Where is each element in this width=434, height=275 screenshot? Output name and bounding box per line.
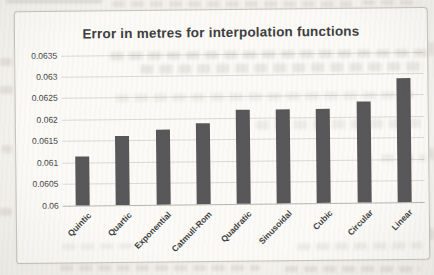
document-page-photo: { "chart_data": { "type": "bar", "title"… xyxy=(0,0,434,275)
bar-quintic xyxy=(75,156,90,205)
photo-artifact-smudge xyxy=(362,0,420,5)
x-category-label: Exponential xyxy=(133,210,174,251)
y-tick-label: 0.0635 xyxy=(17,51,57,60)
bar-sinusoidal xyxy=(276,109,291,203)
y-tick-label: 0.063 xyxy=(17,73,57,82)
bar-linear xyxy=(396,78,411,202)
x-category-label: Linear xyxy=(390,207,415,232)
bar-quartic xyxy=(115,136,130,205)
x-category-label: Quintic xyxy=(65,210,93,238)
photo-artifact-smudge xyxy=(112,1,352,7)
y-tick-label: 0.061 xyxy=(18,158,58,167)
bar-quadratic xyxy=(236,109,251,203)
y-tick-label: 0.0615 xyxy=(18,137,58,146)
x-category-label: Catmull-Rom xyxy=(170,209,214,254)
plot-area: 0.060.06050.0610.06150.0620.06250.0630.0… xyxy=(61,52,425,206)
bar-chart: Error in metres for interpolation functi… xyxy=(14,7,431,264)
photo-artifact-smudge xyxy=(285,266,420,272)
photo-artifact-smudge xyxy=(0,58,12,66)
x-category-label: Quartic xyxy=(105,210,133,238)
chart-title: Error in metres for interpolation functi… xyxy=(15,23,427,42)
y-gridline xyxy=(61,51,423,56)
bar-catmull-rom xyxy=(196,123,211,205)
bar-exponential xyxy=(155,130,170,205)
y-tick-label: 0.062 xyxy=(18,115,58,124)
x-category-label: Quadratic xyxy=(219,209,254,244)
y-gridline xyxy=(61,73,423,78)
photo-artifact-smudge xyxy=(6,0,102,3)
photo-artifact-smudge xyxy=(0,208,12,216)
photo-artifact-smudge xyxy=(2,145,12,153)
photo-artifact-smudge xyxy=(297,242,422,250)
bar-cubic xyxy=(316,109,331,203)
y-gridline xyxy=(62,94,424,99)
photo-artifact-smudge xyxy=(0,86,13,94)
x-category-label: Cubic xyxy=(311,208,335,232)
photo-artifact-smudge xyxy=(429,42,434,56)
y-tick-label: 0.0625 xyxy=(18,94,58,103)
bar-circular xyxy=(356,102,371,203)
photo-artifact-smudge xyxy=(60,265,260,271)
photo-artifact-smudge xyxy=(429,148,434,160)
y-tick-label: 0.0605 xyxy=(18,180,58,189)
photo-artifact-smudge xyxy=(62,243,132,250)
x-category-label: Circular xyxy=(345,207,375,237)
y-tick-label: 0.06 xyxy=(19,201,59,210)
x-category-label: Sinusoidal xyxy=(257,208,294,246)
